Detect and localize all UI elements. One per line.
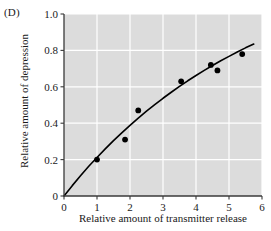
y-tick-label: 0.6 bbox=[44, 81, 58, 93]
x-tick-label: 1 bbox=[94, 201, 100, 213]
y-tick-label: 0.8 bbox=[44, 44, 58, 56]
data-point bbox=[208, 62, 214, 68]
data-point bbox=[135, 108, 141, 114]
y-tick-label: 0.4 bbox=[44, 117, 58, 129]
data-point bbox=[94, 157, 100, 163]
y-tick-label: 0.2 bbox=[44, 154, 58, 166]
x-tick-label: 3 bbox=[160, 201, 166, 213]
figure-panel-d: (D) Relative amount of depression Relati… bbox=[0, 0, 271, 231]
x-tick-label: 2 bbox=[127, 201, 133, 213]
data-point bbox=[122, 137, 128, 143]
x-tick-label: 6 bbox=[259, 201, 265, 213]
y-tick-label: 0 bbox=[53, 190, 59, 202]
data-point bbox=[178, 78, 184, 84]
x-tick-label: 5 bbox=[226, 201, 232, 213]
scatter-plot: 012345600.20.40.60.81.0 bbox=[0, 0, 271, 231]
x-tick-label: 4 bbox=[193, 201, 199, 213]
data-point bbox=[215, 68, 221, 74]
x-tick-label: 0 bbox=[61, 201, 67, 213]
plot-area: 012345600.20.40.60.81.0 bbox=[44, 8, 265, 213]
y-tick-label: 1.0 bbox=[44, 8, 58, 20]
data-point bbox=[239, 51, 245, 57]
